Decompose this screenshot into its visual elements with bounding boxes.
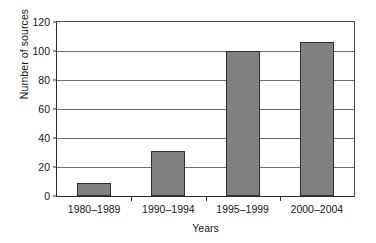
y-axis-title: Number of sources [18,0,30,124]
x-axis-tick-label: 2000–2004 [291,203,344,215]
y-axis-tick-label: 120 [32,16,50,28]
bar [77,183,111,196]
x-axis-tick-label: 1980–1989 [68,203,121,215]
bar [151,151,185,196]
x-axis-title: Years [56,222,355,234]
bar [226,51,260,196]
x-axis-tick-mark [280,196,281,201]
y-axis-tick-label: 20 [38,161,50,173]
x-axis-tick-mark [131,196,132,201]
y-axis-tick-label: 100 [32,45,50,57]
bar-chart-figure: Number of sources 020406080100120 1980–1… [0,0,376,243]
y-axis-tick-label: 60 [38,103,50,115]
plot-area: 020406080100120 1980–19891990–19941995–1… [56,21,355,197]
y-axis-tick-label: 40 [38,132,50,144]
x-axis-tick-mark [206,196,207,201]
bar [300,42,334,196]
y-axis-tick-label: 0 [44,190,50,202]
bars-group [57,22,354,196]
y-axis-tick-label: 80 [38,74,50,86]
x-axis-tick-label: 1990–1994 [142,203,195,215]
x-axis-tick-label: 1995–1999 [216,203,269,215]
